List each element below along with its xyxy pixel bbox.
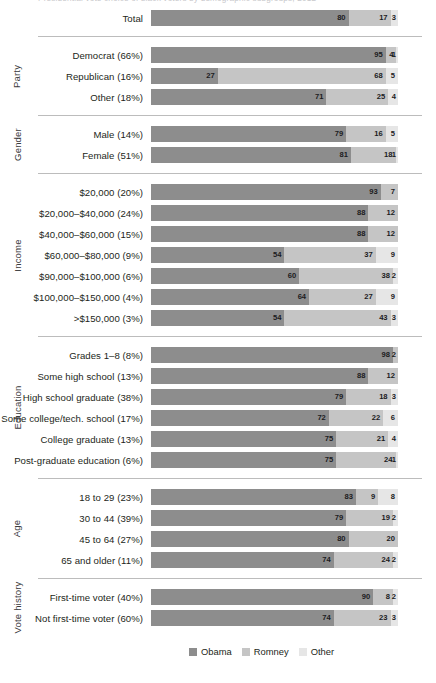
chart-row-label: Total xyxy=(0,13,151,24)
chart-bar: 27685 xyxy=(151,68,398,84)
bar-segment-value: 5 xyxy=(391,72,398,80)
bar-segment-romney: 43 xyxy=(284,310,390,326)
chart-row: High school graduate (38%)79183 xyxy=(0,388,436,406)
chart-bar: 8812 xyxy=(151,368,398,384)
chart-bar: 937 xyxy=(151,184,398,200)
bar-segment-romney: 21 xyxy=(336,431,388,447)
chart-row: Post-graduate education (6%)75241 xyxy=(0,451,436,469)
bar-segment-other: 5 xyxy=(386,126,398,142)
bar-segment-value: 1 xyxy=(392,51,398,59)
bar-segment-value: 90 xyxy=(362,593,373,601)
chart-bar: 8812 xyxy=(151,205,398,221)
chart-row: Other (18%)71254 xyxy=(0,88,436,106)
bar-segment-romney: 24 xyxy=(334,552,393,568)
legend-item-obama[interactable]: Obama xyxy=(189,646,232,657)
bar-segment-other: 6 xyxy=(383,410,398,426)
bar-segment-value: 8 xyxy=(391,493,398,501)
group-axis-label: Gender xyxy=(8,116,26,173)
bar-segment-obama: 93 xyxy=(151,184,381,200)
bar-segment-value: 75 xyxy=(325,456,336,464)
bar-segment-obama: 81 xyxy=(151,147,351,163)
legend-item-romney[interactable]: Romney xyxy=(242,646,289,657)
bar-segment-romney: 8 xyxy=(373,589,393,605)
bar-segment-value: 80 xyxy=(337,535,348,543)
bar-segment-value: 23 xyxy=(379,614,390,622)
legend-item-other[interactable]: Other xyxy=(299,646,334,657)
bar-segment-value: 88 xyxy=(357,230,368,238)
bar-segment-obama: 80 xyxy=(151,10,349,26)
bar-segment-romney: 2 xyxy=(393,347,398,363)
bar-segment-value: 74 xyxy=(322,556,333,564)
bar-segment-obama: 79 xyxy=(151,126,346,142)
chart-bar: 75241 xyxy=(151,452,398,468)
chart-row: Some high school (13%)8812 xyxy=(0,367,436,385)
bar-segment-obama: 80 xyxy=(151,531,349,547)
bar-segment-value: 6 xyxy=(391,414,398,422)
bar-segment-value: 93 xyxy=(369,188,380,196)
bar-segment-value: 1 xyxy=(392,456,398,464)
legend-swatch-icon xyxy=(242,648,250,656)
chart-group: Total80173 xyxy=(0,0,436,36)
chart-row: College graduate (13%)75214 xyxy=(0,430,436,448)
bar-segment-romney: 20 xyxy=(349,531,398,547)
bar-segment-romney: 24 xyxy=(336,452,395,468)
bar-segment-obama: 72 xyxy=(151,410,329,426)
bar-segment-value: 88 xyxy=(357,209,368,217)
bar-segment-value: 80 xyxy=(337,14,348,22)
chart-row: $20,000 (20%)937 xyxy=(0,183,436,201)
bar-segment-value: 3 xyxy=(392,314,398,322)
chart-row: $60,000–$80,000 (9%)54379 xyxy=(0,246,436,264)
group-axis-label-text: Income xyxy=(12,239,23,271)
bar-segment-obama: 54 xyxy=(151,310,284,326)
stacked-bar-chart: Presidential vote choice of black voters… xyxy=(0,0,436,683)
chart-row: $90,000–$100,000 (6%)60382 xyxy=(0,267,436,285)
legend-label: Romney xyxy=(254,646,289,657)
bar-segment-value: 2 xyxy=(392,593,398,601)
bar-segment-romney: 7 xyxy=(381,184,398,200)
chart-row: Republican (16%)27685 xyxy=(0,67,436,85)
chart-group: EducationGrades 1–8 (8%)982Some high sch… xyxy=(0,337,436,478)
bar-segment-value: 9 xyxy=(391,251,398,259)
bar-segment-value: 68 xyxy=(374,72,385,80)
group-axis-label: Education xyxy=(8,337,26,478)
bar-segment-obama: 90 xyxy=(151,589,373,605)
group-axis-label: Income xyxy=(8,174,26,336)
bar-segment-other: 1 xyxy=(396,452,398,468)
chart-bar: 79165 xyxy=(151,126,398,142)
bar-segment-romney: 23 xyxy=(334,610,391,626)
bar-segment-value: 12 xyxy=(387,372,398,380)
chart-bar: 60382 xyxy=(151,268,398,284)
chart-bar: 80173 xyxy=(151,10,398,26)
chart-group: Age18 to 29 (23%)839830 to 44 (39%)79192… xyxy=(0,479,436,578)
bar-segment-obama: 74 xyxy=(151,552,334,568)
chart-group: Vote historyFirst-time voter (40%)9082No… xyxy=(0,579,436,636)
chart-row: Male (14%)79165 xyxy=(0,125,436,143)
chart-bar: 64279 xyxy=(151,289,398,305)
bar-segment-other: 4 xyxy=(388,89,398,105)
chart-bar: 75214 xyxy=(151,431,398,447)
legend-swatch-icon xyxy=(189,648,197,656)
chart-group: PartyDemocrat (66%)9541Republican (16%)2… xyxy=(0,37,436,115)
bar-segment-value: 21 xyxy=(377,435,388,443)
bar-segment-other: 1 xyxy=(396,47,398,63)
bar-segment-value: 5 xyxy=(391,130,398,138)
bar-segment-value: 2 xyxy=(392,351,398,359)
group-axis-label: Age xyxy=(8,479,26,578)
chart-group: GenderMale (14%)79165Female (51%)81181 xyxy=(0,116,436,173)
bar-segment-other: 5 xyxy=(386,68,398,84)
bar-segment-romney: 17 xyxy=(349,10,391,26)
chart-row: Total80173 xyxy=(0,9,436,27)
bar-segment-obama: 71 xyxy=(151,89,326,105)
legend-label: Obama xyxy=(201,646,232,657)
chart-groups: Total80173PartyDemocrat (66%)9541Republi… xyxy=(0,0,436,636)
bar-segment-obama: 88 xyxy=(151,226,368,242)
chart-legend: ObamaRomneyOther xyxy=(189,646,436,657)
bar-segment-value: 9 xyxy=(371,493,378,501)
bar-segment-obama: 27 xyxy=(151,68,218,84)
bar-segment-value: 88 xyxy=(357,372,368,380)
bar-segment-value: 43 xyxy=(379,314,390,322)
chart-row: $40,000–$60,000 (15%)8812 xyxy=(0,225,436,243)
bar-segment-other: 2 xyxy=(393,268,398,284)
chart-row: Not first-time voter (60%)74233 xyxy=(0,609,436,627)
legend-label: Other xyxy=(311,646,334,657)
